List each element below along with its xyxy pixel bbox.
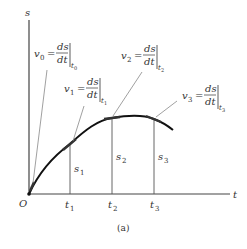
svg-text:s: s [158,151,163,162]
svg-text:dt: dt [57,54,68,65]
svg-text:=: = [195,90,203,101]
svg-text:2: 2 [113,205,117,213]
svg-text:1: 1 [70,89,74,97]
svg-text:2: 2 [127,56,131,64]
tick-label-t1: t 1 [65,199,74,213]
svg-text:2: 2 [122,157,126,165]
svg-text:3: 3 [222,107,225,113]
velocity-annotation-v1: v 1 = ds dt t 1 [64,76,107,106]
svg-text:dt: dt [205,96,216,107]
svg-text:s: s [116,151,121,162]
svg-text:=: = [77,83,85,94]
s-axis-label: s [25,7,30,18]
svg-text:1: 1 [70,205,74,213]
svg-text:1: 1 [104,100,107,106]
velocity-annotation-v2: v 2 = ds dt t 2 [121,43,164,73]
tangent-t3 [146,116,161,122]
svg-text:dt: dt [144,56,155,67]
position-time-diagram: s t O t 1 t 2 t 3 s 1 s 2 s 3 v 0 [0,0,247,249]
svg-text:3: 3 [188,96,192,104]
position-label-s1: s 1 [74,163,84,177]
leader-v3 [156,101,177,117]
position-curve [29,116,173,195]
svg-text:0: 0 [74,65,77,71]
svg-text:2: 2 [161,67,164,73]
svg-text:ds: ds [87,76,99,87]
tangent-t2 [104,117,120,119]
position-label-s3: s 3 [158,151,168,165]
svg-text:3: 3 [155,205,159,213]
svg-text:ds: ds [205,83,217,94]
tick-label-t3: t 3 [150,199,159,213]
svg-text:1: 1 [80,169,84,177]
origin-label: O [19,198,27,209]
velocity-annotation-v3: v 3 = ds dt t 3 [182,83,225,113]
tick-label-t2: t 2 [108,199,117,213]
position-label-s2: s 2 [116,151,126,165]
t-axis-label: t [233,189,238,200]
svg-text:ds: ds [144,43,156,54]
svg-text:=: = [134,50,142,61]
figure-caption: (a) [117,223,129,233]
svg-text:=: = [47,48,55,59]
velocity-annotation-v0: v 0 = ds dt t 0 [34,41,77,71]
svg-text:ds: ds [57,41,69,52]
leader-v2 [113,72,142,116]
tangent-t1 [63,139,76,150]
svg-text:dt: dt [87,89,98,100]
svg-text:3: 3 [164,157,168,165]
leader-v0 [33,70,47,183]
svg-text:s: s [74,163,79,174]
svg-text:0: 0 [40,54,44,62]
